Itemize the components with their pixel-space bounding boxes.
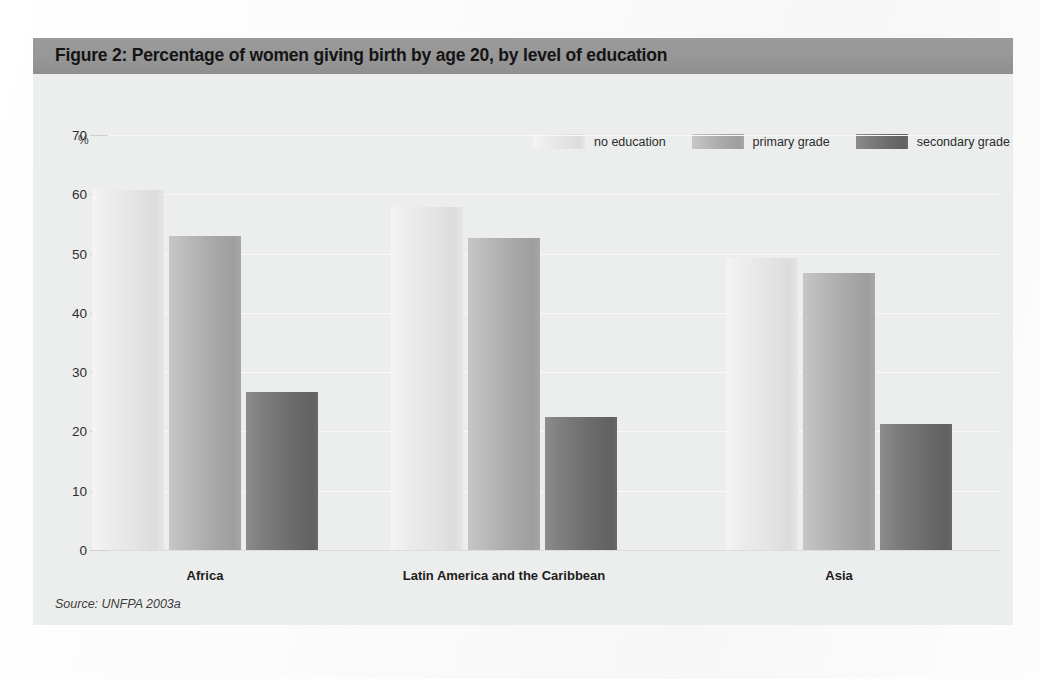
figure-panel: Figure 2: Percentage of women giving bir… <box>33 38 1013 625</box>
source-note: Source: UNFPA 2003a <box>55 597 181 611</box>
y-tick-label-50: 50 <box>53 246 87 261</box>
y-tick-label-70: 70 <box>53 128 87 143</box>
chart-plot-area: % 010203040506070AfricaLatin America and… <box>33 38 1013 625</box>
bar-primary-grade-group-0 <box>169 236 241 550</box>
y-tick-label-10: 10 <box>53 483 87 498</box>
bar-no-education-group-1 <box>391 207 463 550</box>
bar-primary-grade-group-1 <box>468 238 540 550</box>
gridline-60 <box>90 194 1001 195</box>
bar-no-education-group-2 <box>726 258 798 550</box>
bar-no-education-group-0 <box>92 190 164 550</box>
y-tick-label-20: 20 <box>53 424 87 439</box>
bar-secondary-grade-group-0 <box>246 392 318 550</box>
bar-secondary-grade-group-2 <box>880 424 952 550</box>
y-tick-mark-0 <box>90 550 108 551</box>
y-tick-mark-70 <box>90 135 108 136</box>
y-tick-label-60: 60 <box>53 187 87 202</box>
y-tick-label-0: 0 <box>53 543 87 558</box>
bar-primary-grade-group-2 <box>803 273 875 550</box>
x-axis-group-label-0: Africa <box>187 568 224 583</box>
x-axis-group-label-2: Asia <box>825 568 852 583</box>
gridline-70 <box>90 135 1001 136</box>
gridline-0 <box>90 550 1001 551</box>
bar-secondary-grade-group-1 <box>545 417 617 550</box>
y-tick-label-30: 30 <box>53 365 87 380</box>
y-tick-label-40: 40 <box>53 305 87 320</box>
x-axis-group-label-1: Latin America and the Caribbean <box>403 568 606 583</box>
